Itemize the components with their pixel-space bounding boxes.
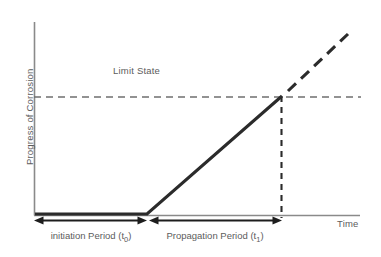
corrosion-projection-dashed — [288, 34, 348, 91]
corrosion-progress-chart: Progress of Corrosion Time Limit State i… — [0, 0, 381, 257]
chart-canvas — [0, 0, 381, 257]
y-axis-label: Progress of Corrosion — [25, 47, 35, 187]
limit-state-label: Limit State — [113, 66, 160, 76]
propagation-period-paren: ) — [260, 230, 263, 241]
initiation-period-span — [34, 216, 147, 224]
corrosion-progress-curve — [35, 96, 282, 214]
initiation-period-arrow-head-left — [34, 216, 44, 224]
x-axis-label: Time — [337, 219, 359, 229]
propagation-period-text: Propagation Period (t — [166, 230, 256, 241]
propagation-period-label: Propagation Period (t1) — [148, 231, 282, 243]
initiation-period-paren: ) — [128, 230, 131, 241]
propagation-period-arrow-head-left — [149, 216, 159, 224]
initiation-period-text: initiation Period (t — [51, 230, 124, 241]
propagation-period-span — [149, 216, 282, 224]
initiation-period-label: initiation Period (t0) — [43, 231, 139, 243]
initiation-period-arrow-head-right — [138, 216, 148, 224]
